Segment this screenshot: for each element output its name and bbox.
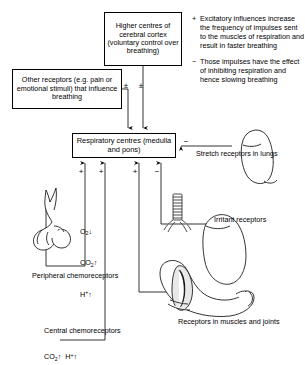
sign-higher-centres: ± xyxy=(136,82,146,90)
label-central-chemoreceptors: Central chemoreceptors xyxy=(44,327,121,336)
legend-item-inhibitory: − Those impulses have the effect of inhi… xyxy=(192,57,304,84)
legend-item-inhibitory-text: Those impulses have the effect of inhibi… xyxy=(200,57,304,84)
box-respiratory-centres: Respiratory centres (medulla and pons) xyxy=(72,133,176,158)
value-co2: CO2↑ xyxy=(80,258,97,268)
box-other-receptors: Other receptors (e.g. pain or emotional … xyxy=(12,69,122,109)
legend-item-excitatory: + Excitatory influences increase the fre… xyxy=(192,14,304,50)
label-irritant-receptors: Irritant receptors xyxy=(214,216,266,225)
legend-item-excitatory-text: Excitatory influences increase the frequ… xyxy=(200,14,304,50)
box-higher-centres-label: Higher centres of cerebral cortex (volun… xyxy=(105,22,181,56)
label-muscle-joint-receptors: Receptors in muscles and joints xyxy=(178,318,279,327)
box-other-receptors-label: Other receptors (e.g. pain or emotional … xyxy=(13,76,121,101)
arm-muscle-illustration xyxy=(148,258,258,320)
label-peripheral-chemoreceptors: Peripheral chemoreceptors xyxy=(32,272,118,281)
central-chemoreceptor-values: CO2↑ H+↑ xyxy=(44,353,121,362)
value-h: H+↑ xyxy=(80,290,97,300)
sign-central: + xyxy=(96,168,106,176)
sign-other-receptors: ± xyxy=(121,82,131,90)
sign-peripheral: + xyxy=(76,168,86,176)
box-respiratory-centres-label: Respiratory centres (medulla and pons) xyxy=(73,137,175,154)
value-o2: O2↓ xyxy=(80,227,97,237)
box-higher-centres: Higher centres of cerebral cortex (volun… xyxy=(104,12,182,66)
peripheral-chemoreceptor-values: O2↓ CO2↑ H+↑ xyxy=(80,206,97,321)
legend-plus-icon: + xyxy=(192,14,200,50)
sign-muscle: + xyxy=(130,168,140,176)
label-central-chemoreceptors-group: Central chemoreceptors CO2↑ H+↑ xyxy=(44,310,121,365)
sign-irritant: − xyxy=(152,168,162,176)
label-stretch-receptors: Stretch receptors in lungs xyxy=(196,150,278,159)
sign-stretch-receptors: − xyxy=(181,138,191,146)
carotid-aorta-illustration xyxy=(24,186,82,262)
legend-minus-icon: − xyxy=(192,57,200,84)
legend: + Excitatory influences increase the fre… xyxy=(192,14,304,91)
